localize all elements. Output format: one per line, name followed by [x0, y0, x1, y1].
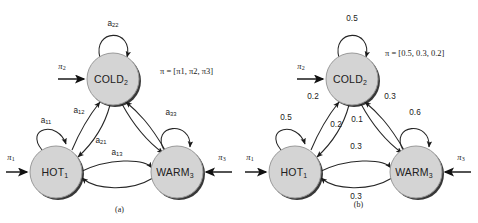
node-warm-sub: 3 — [429, 172, 433, 179]
label-p11: 0.5 — [280, 113, 292, 122]
label-a13: a13 — [111, 148, 122, 158]
edge-hot-warm — [319, 161, 391, 172]
label-pi2: π2 — [297, 61, 304, 71]
panel-b-svg: HOT1 COLD2 WARM3 0.5 0.5 0.6 — [239, 0, 478, 223]
edge-warm-hot — [321, 178, 392, 188]
edge-cold-warm — [361, 104, 402, 153]
node-cold-sub: 2 — [363, 79, 367, 86]
label-a11: a11 — [41, 116, 52, 126]
edge-cold-warm — [122, 104, 163, 153]
node-cold-label: COLD — [94, 73, 124, 85]
svg-text:COLD2: COLD2 — [94, 73, 128, 86]
node-warm-sub: 3 — [190, 172, 194, 179]
label-p23: 0.1 — [351, 115, 363, 124]
label-p12: 0.2 — [307, 92, 319, 101]
label-p13: 0.3 — [350, 142, 362, 151]
edge-warm-hot — [82, 178, 153, 188]
label-a33: a33 — [165, 108, 176, 118]
edge-warm-cold — [365, 102, 404, 150]
label-p22: 0.5 — [346, 14, 358, 23]
label-pi2: π2 — [58, 61, 65, 71]
edge-hot-warm — [80, 161, 152, 172]
node-cold-sub: 2 — [124, 79, 128, 86]
node-warm[interactable]: WARM3 — [390, 146, 444, 200]
label-pi3: π3 — [457, 152, 464, 162]
node-hot-label: HOT — [42, 166, 65, 178]
node-hot-sub: 1 — [303, 172, 307, 179]
node-hot[interactable]: HOT1 — [30, 146, 84, 200]
label-p21: 0.2 — [330, 120, 342, 129]
caption-b: (b) — [239, 200, 478, 209]
node-cold[interactable]: COLD2 — [326, 53, 380, 107]
panel-a: HOT1 COLD2 WARM3 a11 — [0, 0, 239, 223]
label-pi3: π3 — [218, 152, 225, 162]
node-hot-label: HOT — [281, 166, 304, 178]
label-pi1: π1 — [246, 152, 253, 162]
svg-text:WARM3: WARM3 — [395, 166, 433, 179]
caption-a: (a) — [0, 205, 239, 214]
svg-text:COLD2: COLD2 — [333, 73, 367, 86]
node-hot[interactable]: HOT1 — [269, 146, 323, 200]
label-a12: a12 — [73, 106, 84, 116]
label-p32: 0.3 — [384, 92, 396, 101]
figure-root: HOT1 COLD2 WARM3 a11 — [0, 0, 478, 223]
pi-vector-b: π = [0.5, 0.3, 0.2] — [385, 48, 444, 58]
label-a21: a21 — [95, 136, 106, 146]
label-a22: a22 — [107, 19, 118, 29]
node-warm[interactable]: WARM3 — [151, 146, 205, 200]
label-p33: 0.6 — [409, 108, 421, 117]
label-pi1: π1 — [7, 152, 14, 162]
pi-vector-a: π = [π1, π2, π3] — [160, 66, 213, 76]
node-warm-label: WARM — [156, 166, 190, 178]
node-warm-label: WARM — [395, 166, 429, 178]
svg-text:WARM3: WARM3 — [156, 166, 194, 179]
panel-b: HOT1 COLD2 WARM3 0.5 0.5 0.6 — [239, 0, 478, 223]
edge-cold-hot — [317, 105, 349, 157]
node-cold-label: COLD — [333, 73, 363, 85]
edge-warm-cold — [126, 102, 165, 150]
node-cold[interactable]: COLD2 — [87, 53, 141, 107]
node-hot-sub: 1 — [64, 172, 68, 179]
panel-a-svg: HOT1 COLD2 WARM3 a11 — [0, 0, 239, 223]
